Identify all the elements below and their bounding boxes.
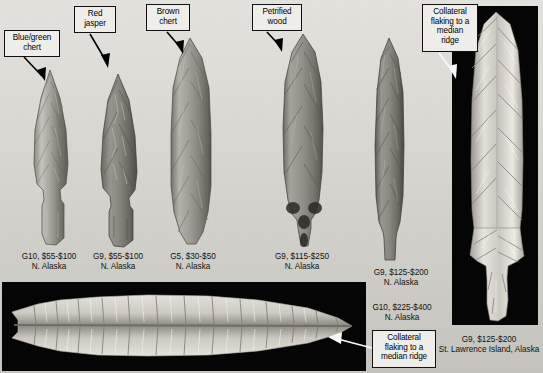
callout-red-jasper: Red jasper xyxy=(74,6,116,33)
callout-line: ridge xyxy=(426,36,474,46)
artifact-point-2 xyxy=(88,72,150,250)
caption-grade-price: G9, $125-$200 xyxy=(435,335,543,345)
callout-line: Brown xyxy=(150,7,186,17)
artifact-point-3 xyxy=(159,36,221,250)
callout-arrow-collateral-flaking-bottom xyxy=(316,330,374,354)
artifact-point-1 xyxy=(20,68,84,248)
callout-line: Blue/green xyxy=(8,33,56,43)
caption-locality: N. Alaska xyxy=(352,278,450,288)
artifact-point-5 xyxy=(364,36,416,264)
caption-point-7: G9, $125-$200 St. Lawrence Island, Alask… xyxy=(435,335,543,355)
callout-line: chert xyxy=(8,43,56,53)
callout-line: flaking to a xyxy=(376,343,432,353)
callout-line: Collateral xyxy=(426,7,474,17)
callout-collateral-flaking-bottom: Collateral flaking to a median ridge xyxy=(372,330,436,368)
caption-point-5: G9, $125-$200 N. Alaska xyxy=(352,268,450,288)
caption-grade-price: G9, $125-$200 xyxy=(352,268,450,278)
callout-arrow-brown-chert xyxy=(166,31,190,55)
caption-point-6: G10, $225-$400 N. Alaska xyxy=(352,303,452,323)
artifact-point-6 xyxy=(8,288,358,364)
caption-locality: N. Alaska xyxy=(352,313,452,323)
callout-line: flaking to a xyxy=(426,17,474,27)
callout-line: wood xyxy=(256,17,298,27)
callout-line: chert xyxy=(150,17,186,27)
callout-line: Red xyxy=(78,9,112,19)
callout-blue-green-chert: Blue/green chert xyxy=(4,30,60,57)
caption-grade-price: G9, $115-$250 xyxy=(253,252,351,262)
callout-line: median xyxy=(426,26,474,36)
figure-plate: Blue/green chert Red jasper Brown chert … xyxy=(0,0,543,373)
caption-locality: N. Alaska xyxy=(253,262,351,272)
artifact-point-7-lower xyxy=(462,228,532,323)
callout-arrow-collateral-flaking-top xyxy=(438,52,464,80)
callout-arrow-petrified-wood xyxy=(266,31,290,53)
callout-brown-chert: Brown chert xyxy=(146,4,190,31)
callout-line: median ridge xyxy=(376,352,432,362)
artifact-point-4 xyxy=(271,32,335,250)
callout-line: Collateral xyxy=(376,333,432,343)
callout-arrow-red-jasper xyxy=(88,33,116,69)
callout-collateral-flaking-top: Collateral flaking to a median ridge xyxy=(422,4,478,52)
caption-point-3: G5, $30-$50 N. Alaska xyxy=(148,252,238,272)
caption-point-4: G9, $115-$250 N. Alaska xyxy=(253,252,351,272)
callout-line: Petrified xyxy=(256,7,298,17)
callout-petrified-wood: Petrified wood xyxy=(252,4,302,31)
caption-locality: St. Lawrence Island, Alaska xyxy=(435,345,543,355)
caption-locality: N. Alaska xyxy=(148,262,238,272)
caption-grade-price: G5, $30-$50 xyxy=(148,252,238,262)
callout-line: jasper xyxy=(78,19,112,29)
caption-grade-price: G10, $225-$400 xyxy=(352,303,452,313)
callout-arrow-blue-green-chert xyxy=(22,56,52,82)
